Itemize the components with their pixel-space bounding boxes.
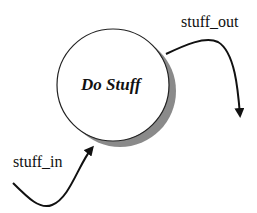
- diagram-graphics: [0, 0, 257, 213]
- flow-in-label: stuff_in: [13, 154, 62, 170]
- diagram-canvas: Do Stuff stuff_in stuff_out: [0, 0, 257, 213]
- flow-out-arrow: [166, 40, 240, 115]
- flow-out-label: stuff_out: [181, 14, 238, 30]
- process-label: Do Stuff: [81, 76, 141, 93]
